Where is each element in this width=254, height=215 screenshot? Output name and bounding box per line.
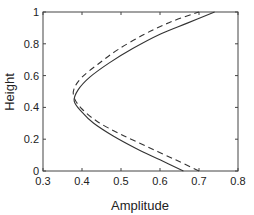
y-tick-label: 0.4: [24, 101, 39, 113]
x-tick-label: 0.4: [74, 175, 89, 187]
solid-line: [74, 12, 215, 171]
amplitude-height-chart: 0.30.40.50.60.70.800.20.40.60.81 Amplitu…: [0, 0, 254, 215]
plot-lines: [73, 12, 214, 171]
y-tick-label: 1: [33, 6, 39, 18]
y-tick-label: 0.2: [24, 133, 39, 145]
x-axis-label: Amplitude: [111, 198, 169, 213]
y-tick-label: 0.6: [24, 70, 39, 82]
dashed-line: [73, 12, 199, 171]
x-tick-label: 0.8: [230, 175, 245, 187]
x-tick-label: 0.5: [113, 175, 128, 187]
plot-axes: 0.30.40.50.60.70.800.20.40.60.81: [24, 6, 246, 187]
y-tick-label: 0: [33, 165, 39, 177]
x-tick-label: 0.7: [191, 175, 206, 187]
y-axis-label: Height: [2, 73, 17, 111]
y-tick-label: 0.8: [24, 38, 39, 50]
chart-canvas: 0.30.40.50.60.70.800.20.40.60.81 Amplitu…: [0, 0, 254, 215]
x-tick-label: 0.6: [152, 175, 167, 187]
